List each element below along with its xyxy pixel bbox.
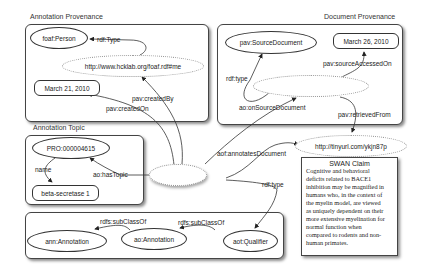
- node-annotation-center: [149, 164, 207, 186]
- claim-line: humans who, in the context of: [306, 191, 393, 199]
- edge-label-rdfs-subclassof-2: rdfs:subClassOf: [178, 219, 224, 226]
- edge-label-rdf-type-source: rdf:type: [226, 75, 248, 82]
- node-pav-source-document: pav:SourceDocument: [225, 31, 317, 54]
- claim-line: more extensive myelination for: [306, 215, 393, 223]
- node-beta-secretase: beta-secretase 1: [32, 185, 99, 201]
- edge-label-pav-source-accessed-on: pav:sourceAccessedOn: [323, 60, 392, 67]
- swan-claim-text: Cognitive and behavioral deficits relate…: [306, 167, 393, 247]
- node-aot-qualifier: aot:Qualifier: [223, 230, 278, 252]
- node-created-date: March 21, 2010: [34, 80, 100, 96]
- claim-line: as uniquely dependent on their: [306, 207, 393, 215]
- node-pro-id: PRO:000004615: [32, 137, 110, 159]
- edge-label-ao-has-topic: ao:hasTopic: [93, 171, 128, 178]
- edge-label-ao-on-source-document: ao:onSourceDocument: [239, 104, 306, 111]
- node-ann-annotation: ann:Annotation: [27, 230, 107, 252]
- node-accessed-date: March 26, 2010: [333, 33, 399, 49]
- claim-line: the myelin model, are viewed: [306, 199, 393, 207]
- claim-line: normal function when: [306, 223, 393, 231]
- edge-label-pav-retrieved-from: pav:retrievedFrom: [338, 111, 391, 118]
- edge-label-aof-annotates-document: aof:annotatesDocument: [217, 150, 286, 157]
- node-ao-annotation: ao:Annotation: [121, 228, 187, 250]
- edge-label-pav-created-by: pav:createdBy: [132, 95, 174, 102]
- edge-label-rdfs-subclassof-1: rdfs:subClassOf: [100, 218, 146, 225]
- edge-label-rdf-type-person: rdf:Type: [97, 36, 120, 43]
- swan-claim-box: SWAN Claim Cognitive and behavioral defi…: [301, 157, 398, 256]
- edge-label-name: name: [35, 166, 51, 173]
- node-source-document-blank: [253, 75, 369, 97]
- claim-line: compared to rodents and non-: [306, 231, 393, 239]
- swan-claim-title: SWAN Claim: [306, 160, 393, 167]
- claim-line: inhibition may be magnified in: [306, 183, 393, 191]
- claim-line: Cognitive and behavioral: [306, 167, 393, 175]
- edge-label-rdf-type-qualifier: rdf:type: [262, 181, 284, 188]
- claim-line: human primates.: [306, 239, 393, 247]
- claim-line: deficits related to BACE1: [306, 175, 393, 183]
- node-foaf-person: foaf:Person: [30, 27, 88, 49]
- node-tinyurl: http://tinyurl.com/ykjn87p: [295, 135, 407, 157]
- edge-label-pav-created-on: pav:createdOn: [106, 105, 149, 112]
- node-hcklab-uri: http://www.hcklab.org/foaf.rdf#me: [62, 55, 204, 77]
